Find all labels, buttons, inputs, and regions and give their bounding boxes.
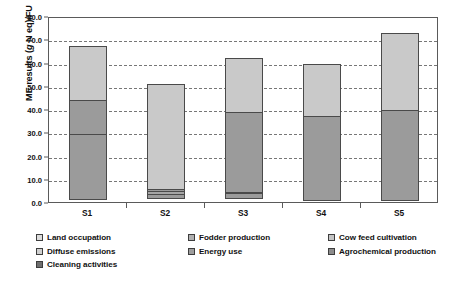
y-axis-tick-label: 0.0 [2, 199, 42, 208]
legend-item: Cow feed cultivation [328, 233, 436, 242]
legend-label: Fodder production [199, 233, 270, 242]
legend-swatch-icon [36, 261, 43, 268]
bar-s2 [147, 84, 185, 202]
legend-item: Diffuse emissions [36, 247, 188, 256]
legend-item: Energy use [188, 247, 328, 256]
y-axis-tick-label: 30.0 [2, 129, 42, 138]
legend-swatch-icon [188, 248, 195, 255]
x-axis-tick-mark [360, 203, 361, 208]
chart-legend: Land occupationFodder productionCow feed… [36, 231, 436, 272]
y-axis-tick-mark [44, 17, 48, 18]
x-axis-label-s2: S2 [135, 208, 195, 218]
legend-swatch-icon [328, 234, 335, 241]
y-axis-tick-mark [44, 133, 48, 134]
y-axis-tick-mark [44, 156, 48, 157]
legend-label: Land occupation [47, 233, 111, 242]
x-axis-label-s4: S4 [291, 208, 351, 218]
y-axis-tick-mark [44, 40, 48, 41]
legend-label: Energy use [199, 247, 242, 256]
legend-item: Fodder production [188, 233, 328, 242]
bar-segment [225, 112, 263, 193]
bar-segment [147, 194, 185, 199]
y-axis-tick-label: 80.0 [2, 13, 42, 22]
bar-segment [381, 110, 419, 201]
y-axis-tick-mark [44, 203, 48, 204]
y-axis-tick-label: 70.0 [2, 36, 42, 45]
bar-segment [69, 134, 107, 200]
gridline [49, 41, 437, 42]
y-axis-tick-mark [44, 110, 48, 111]
bar-segment [303, 116, 341, 201]
y-axis-tick-label: 40.0 [2, 106, 42, 115]
legend-swatch-icon [36, 234, 43, 241]
bar-s3 [225, 58, 263, 202]
legend-item: Agrochemical production [328, 247, 436, 256]
legend-swatch-icon [328, 248, 335, 255]
legend-label: Diffuse emissions [47, 247, 115, 256]
y-axis-title-italic: g [24, 45, 34, 51]
stacked-bar-chart: ME results (g N eq)/FU 0.010.020.030.040… [0, 0, 451, 282]
y-axis-tick-label: 10.0 [2, 175, 42, 184]
bar-s4 [303, 64, 341, 202]
x-axis-tick-mark [126, 203, 127, 208]
x-axis-label-s1: S1 [57, 208, 117, 218]
legend-label: Cleaning activities [47, 260, 117, 269]
legend-item: Cleaning activities [36, 260, 188, 269]
y-axis-tick-label: 20.0 [2, 152, 42, 161]
y-axis-tick-mark [44, 63, 48, 64]
bar-s1 [69, 46, 107, 202]
bar-segment [225, 193, 263, 199]
legend-label: Cow feed cultivation [339, 233, 417, 242]
x-axis-label-s3: S3 [213, 208, 273, 218]
x-axis-label-s5: S5 [369, 208, 429, 218]
x-axis-tick-mark [204, 203, 205, 208]
bar-s5 [381, 33, 419, 202]
y-axis-tick-mark [44, 179, 48, 180]
bar-segment [69, 46, 107, 101]
y-axis-tick-label: 50.0 [2, 82, 42, 91]
y-axis-tick-label: 60.0 [2, 59, 42, 68]
bar-segment [225, 58, 263, 113]
plot-area [48, 17, 438, 203]
legend-item: Land occupation [36, 233, 188, 242]
y-axis-title-prefix: ME results ( [24, 50, 34, 101]
legend-swatch-icon [36, 248, 43, 255]
bar-segment [381, 33, 419, 111]
legend-swatch-icon [188, 234, 195, 241]
legend-label: Agrochemical production [339, 247, 436, 256]
bar-segment [303, 64, 341, 116]
y-axis-tick-mark [44, 86, 48, 87]
bar-segment [147, 84, 185, 190]
x-axis-tick-mark [282, 203, 283, 208]
bar-segment [69, 100, 107, 135]
